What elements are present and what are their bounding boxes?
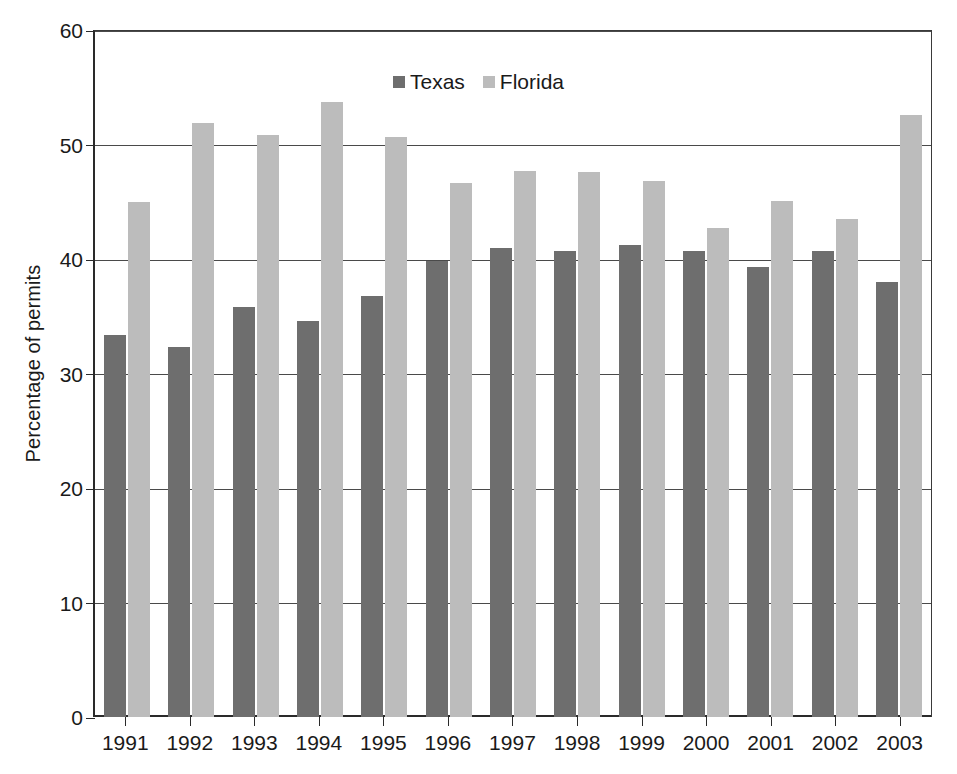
bar-texas-1997 [490, 248, 512, 717]
bar-group [95, 31, 159, 717]
x-axis-labels: 1991199219931994199519961997199819992000… [93, 731, 932, 755]
bar-florida-1997 [514, 171, 536, 717]
x-axis-tickmark [416, 717, 481, 727]
x-axis-tickmark [738, 717, 803, 727]
bar-texas-1994 [297, 321, 319, 717]
bar-florida-2001 [771, 201, 793, 717]
bar-group [288, 31, 352, 717]
x-axis-tickmark [674, 717, 739, 727]
bar-florida-2002 [836, 219, 858, 717]
x-axis-tickmark [803, 717, 868, 727]
x-axis-tickmark [480, 717, 545, 727]
x-axis-tickmarks [93, 717, 932, 727]
bar-group [610, 31, 674, 717]
bar-texas-1998 [554, 251, 576, 717]
bar-group [224, 31, 288, 717]
y-axis-tick-label: 30 [25, 363, 95, 387]
x-axis-tickmark [222, 717, 287, 727]
bar-group [352, 31, 416, 717]
bar-group [802, 31, 866, 717]
bar-florida-1994 [321, 102, 343, 717]
bar-group [481, 31, 545, 717]
plot-area: 0102030405060 [93, 30, 932, 717]
bar-florida-1998 [578, 172, 600, 717]
y-axis-tick-label: 20 [25, 477, 95, 501]
bar-group [674, 31, 738, 717]
x-axis-tickmark [158, 717, 223, 727]
bar-texas-1993 [233, 307, 255, 717]
x-axis-tickmark [93, 717, 158, 727]
bar-texas-2001 [747, 267, 769, 717]
y-axis-tick-label: 40 [25, 248, 95, 272]
x-axis-tick-label: 1997 [480, 731, 545, 755]
bar-group [545, 31, 609, 717]
x-axis-tick-label: 1994 [287, 731, 352, 755]
x-axis-tick-label: 2001 [738, 731, 803, 755]
y-axis-tick-label: 10 [25, 592, 95, 616]
x-axis-tickmark [609, 717, 674, 727]
x-axis-tick-label: 1996 [416, 731, 481, 755]
x-axis-tick-label: 1998 [545, 731, 610, 755]
bar-texas-2002 [812, 251, 834, 717]
x-axis-tickmark [351, 717, 416, 727]
y-axis-tick-label: 60 [25, 19, 95, 43]
x-axis-tick-label: 1991 [93, 731, 158, 755]
bar-group [417, 31, 481, 717]
bar-florida-1995 [385, 137, 407, 718]
y-axis-tick-label: 50 [25, 134, 95, 158]
bar-texas-2003 [876, 282, 898, 717]
bar-florida-1992 [192, 123, 214, 717]
bar-group [738, 31, 802, 717]
x-axis-tick-label: 2000 [674, 731, 739, 755]
bar-texas-1996 [426, 261, 448, 717]
bar-florida-1999 [643, 181, 665, 717]
bar-florida-2000 [707, 228, 729, 717]
x-axis-tick-label: 2002 [803, 731, 868, 755]
bar-groups [95, 31, 931, 717]
bar-texas-2000 [683, 251, 705, 717]
bar-florida-1993 [257, 135, 279, 717]
bar-group [159, 31, 223, 717]
bar-florida-1991 [128, 202, 150, 717]
y-axis-tick-label: 0 [25, 706, 95, 730]
x-axis-tickmark [867, 717, 932, 727]
bar-texas-1995 [361, 296, 383, 717]
bar-texas-1992 [168, 347, 190, 717]
bar-texas-1999 [619, 245, 641, 717]
bar-chart: Percentage of permits 0102030405060 1991… [0, 0, 957, 774]
x-axis-tick-label: 2003 [867, 731, 932, 755]
bar-texas-1991 [104, 335, 126, 717]
bar-florida-1996 [450, 183, 472, 717]
x-axis-tickmark [287, 717, 352, 727]
bar-florida-2003 [900, 115, 922, 717]
x-axis-tick-label: 1992 [158, 731, 223, 755]
x-axis-tick-label: 1999 [609, 731, 674, 755]
x-axis-tick-label: 1993 [222, 731, 287, 755]
bar-group [867, 31, 931, 717]
x-axis-tick-label: 1995 [351, 731, 416, 755]
x-axis-tickmark [545, 717, 610, 727]
